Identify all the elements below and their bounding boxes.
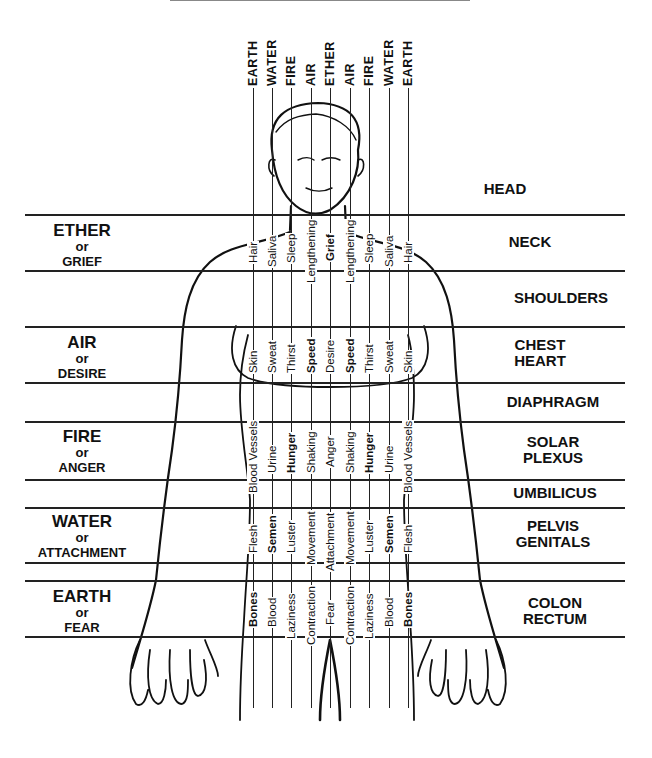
cell-water-semen: Semen	[383, 514, 395, 554]
band-line	[25, 421, 625, 423]
cell-water-flesh: Flesh	[402, 524, 414, 554]
left-label-fire-anger: FIRE or ANGER	[12, 428, 152, 475]
band-line	[25, 270, 625, 272]
cell-earth-fear: Fear	[324, 600, 336, 626]
element-name: ETHER	[12, 222, 152, 240]
emotion-name: FEAR	[12, 620, 152, 635]
cell-water-flesh: Flesh	[247, 524, 259, 554]
emotion-name: DESIRE	[12, 366, 152, 381]
cell-air-thirst: Thirst	[363, 343, 375, 374]
right-label-pelvis-genitals: PELVIS GENITALS	[478, 518, 628, 550]
cell-air-skin: Skin	[247, 350, 259, 374]
cell-air-sweat: Sweat	[383, 340, 395, 374]
left-label-earth-fear: EARTH or FEAR	[12, 588, 152, 635]
or-text: or	[12, 531, 152, 545]
cell-fire-hunger: Hunger	[363, 432, 375, 474]
cell-air-thirst: Thirst	[285, 343, 297, 374]
cell-fire-urine: Urine	[266, 445, 278, 474]
cell-water-semen: Semen	[266, 514, 278, 554]
cell-fire-hunger: Hunger	[285, 432, 297, 474]
band-line	[25, 214, 625, 216]
ayurveda-body-element-chart: EARTH WATER FIRE AIR ETHER AIR FIRE WATE…	[0, 0, 652, 758]
element-name: FIRE	[12, 428, 152, 446]
cell-fire-shaking: Shaking	[344, 430, 356, 474]
cell-ether-sleep: Sleep	[285, 233, 297, 264]
cell-fire-anger: Anger	[324, 435, 336, 468]
element-name: EARTH	[12, 588, 152, 606]
top-label-ether: ETHER	[324, 41, 337, 86]
band-line	[25, 326, 625, 328]
top-label-air: AIR	[344, 63, 357, 86]
cell-air-skin: Skin	[402, 350, 414, 374]
cell-ether-hair: Hair	[247, 241, 259, 264]
emotion-name: ANGER	[12, 460, 152, 475]
band-line	[25, 382, 625, 384]
cell-earth-blood: Blood	[266, 597, 278, 628]
element-name: AIR	[12, 334, 152, 352]
top-label-earth: EARTH	[402, 40, 415, 86]
top-label-water: WATER	[383, 39, 396, 86]
right-label-diaphragm: DIAPHRAGM	[478, 394, 628, 410]
cell-ether-saliva: Saliva	[266, 235, 278, 268]
cell-fire-urine: Urine	[383, 445, 395, 474]
cell-water-movement: Movement	[344, 510, 356, 566]
cell-ether-sleep: Sleep	[363, 233, 375, 264]
emotion-name: GRIEF	[12, 254, 152, 269]
or-text: or	[12, 240, 152, 254]
cell-ether-saliva: Saliva	[383, 235, 395, 268]
right-label-solar-plexus: SOLAR PLEXUS	[478, 434, 628, 466]
or-text: or	[12, 606, 152, 620]
cell-water-luster: Luster	[285, 520, 297, 554]
right-label-umbilicus: UMBILICUS	[480, 485, 630, 501]
cell-ether-grief: Grief	[324, 233, 336, 262]
right-label-shoulders: SHOULDERS	[486, 290, 636, 306]
band-line	[25, 507, 625, 509]
cell-earth-bones: Bones	[402, 591, 414, 628]
cell-air-desire: Desire	[324, 339, 336, 374]
cell-earth-contraction: Contraction	[344, 585, 356, 646]
left-label-air-desire: AIR or DESIRE	[12, 334, 152, 381]
cell-fire-blood-vessels: Blood Vessels	[247, 420, 259, 494]
emotion-name: ATTACHMENT	[12, 545, 152, 560]
cell-earth-laziness: Laziness	[363, 593, 375, 640]
right-label-colon-rectum: COLON RECTUM	[480, 595, 630, 627]
cell-earth-blood: Blood	[383, 597, 395, 628]
right-label-neck: NECK	[455, 234, 605, 250]
cell-fire-blood-vessels: Blood Vessels	[402, 420, 414, 494]
right-label-head: HEAD	[430, 181, 580, 197]
cell-water-attachment: Attachment	[324, 512, 336, 572]
right-label-chest-heart: CHEST HEART	[465, 337, 615, 369]
band-line	[25, 479, 625, 481]
cell-ether-hair: Hair	[402, 241, 414, 264]
top-label-fire: FIRE	[363, 56, 376, 86]
cell-earth-laziness: Laziness	[285, 593, 297, 640]
cell-fire-shaking: Shaking	[305, 430, 317, 474]
band-line	[25, 580, 625, 582]
left-label-ether-grief: ETHER or GRIEF	[12, 222, 152, 269]
or-text: or	[12, 352, 152, 366]
cell-earth-bones: Bones	[247, 591, 259, 628]
left-label-water-attachment: WATER or ATTACHMENT	[12, 513, 152, 560]
cell-earth-contraction: Contraction	[305, 585, 317, 646]
or-text: or	[12, 446, 152, 460]
top-label-fire: FIRE	[285, 56, 298, 86]
top-label-water: WATER	[266, 39, 279, 86]
cell-ether-lengthening: Lengthening	[344, 219, 356, 284]
element-name: WATER	[12, 513, 152, 531]
top-label-air: AIR	[305, 63, 318, 86]
cell-ether-lengthening: Lengthening	[305, 219, 317, 284]
cell-air-speed: Speed	[344, 337, 356, 374]
cell-air-sweat: Sweat	[266, 340, 278, 374]
cell-water-luster: Luster	[363, 520, 375, 554]
top-label-earth: EARTH	[247, 40, 260, 86]
cell-water-movement: Movement	[305, 510, 317, 566]
band-line	[25, 636, 625, 638]
cell-air-speed: Speed	[305, 337, 317, 374]
